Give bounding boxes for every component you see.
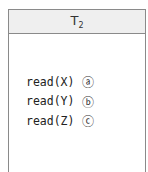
transaction-header: T2 [9,10,145,34]
circled-label-b-icon: ⓑ [82,93,94,110]
operation-code: read(Y) [26,94,82,108]
operation-list: read(X) ⓐ read(Y) ⓑ read(Z) ⓒ [26,72,94,131]
transaction-column: T2 read(X) ⓐ read(Y) ⓑ read(Z) ⓒ [8,9,146,172]
operation-row: read(X) ⓐ [26,72,94,92]
operation-row: read(Y) ⓑ [26,92,94,112]
transaction-name: T2 [70,13,83,30]
operation-code: read(Z) [26,114,82,128]
circled-label-c-icon: ⓒ [82,112,94,129]
circled-label-a-icon: ⓐ [82,73,94,90]
operation-row: read(Z) ⓒ [26,111,94,131]
operation-code: read(X) [26,75,82,89]
